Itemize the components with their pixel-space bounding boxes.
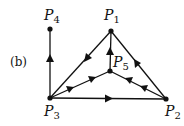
edge-p3-p5 <box>50 71 110 98</box>
node-p5 <box>107 68 112 73</box>
node-label-p5: P5 <box>113 55 129 72</box>
arrow-up-left-icon <box>140 85 148 92</box>
node-label-p2: P2 <box>165 104 181 121</box>
node-p1 <box>108 28 113 33</box>
panel-label: (b) <box>10 56 27 68</box>
edge-p2-p5 <box>110 71 166 99</box>
node-label-p3: P3 <box>44 104 60 121</box>
arrow-down-left-icon <box>84 53 92 62</box>
node-label-p4: P4 <box>44 8 60 25</box>
directed-graph-diagram: (b) P4 P1 P5 P3 P2 <box>0 0 184 126</box>
graph-canvas <box>0 0 184 126</box>
arrow-up-left-icon <box>125 77 133 84</box>
arrow-up-right-icon <box>88 76 96 83</box>
node-p4 <box>47 26 52 31</box>
arrow-icons <box>46 47 148 103</box>
edge-p1-p3 <box>50 31 111 98</box>
node-p3 <box>47 95 52 100</box>
node-label-p1: P1 <box>104 8 120 25</box>
arrow-up-right-icon <box>66 86 74 93</box>
node-p2 <box>163 96 168 101</box>
arrow-right-icon <box>105 95 113 103</box>
arrow-up-icon <box>46 54 54 62</box>
